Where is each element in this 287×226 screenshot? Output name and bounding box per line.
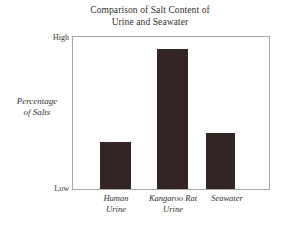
chart-title-line-2: Urine and Seawater (60, 16, 240, 28)
x-category-label-seawater-line-1: Seawater (198, 193, 256, 204)
x-category-label-seawater: Seawater (198, 193, 256, 204)
bar-kangaroo-rat-urine (157, 49, 188, 189)
plot-area: High Low (72, 36, 270, 190)
chart-title: Comparison of Salt Content of Urine and … (60, 4, 240, 28)
y-axis-label-line-1: Percentage (8, 96, 66, 107)
bar-seawater (206, 133, 235, 189)
bar-human-urine (100, 142, 131, 189)
chart-title-line-1: Comparison of Salt Content of (60, 4, 240, 16)
y-tick-label-high: High (53, 34, 69, 42)
x-category-label-kangaroo-rat-urine-line-2: Urine (137, 204, 209, 215)
chart-figure: Comparison of Salt Content of Urine and … (0, 0, 287, 226)
y-axis-label: Percentage of Salts (8, 96, 66, 118)
y-tick-label-low: Low (54, 185, 69, 193)
y-axis-label-line-2: of Salts (8, 107, 66, 118)
